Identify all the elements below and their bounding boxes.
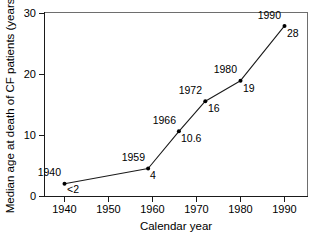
point-year-label-1966: 1966 [153,114,177,126]
y-tick-label-30: 30 [24,7,36,19]
point-value-label-1980: 19 [243,82,255,94]
data-point-1990 [283,24,287,28]
point-value-label-1959: 4 [150,169,156,181]
point-value-label-1966: 10.6 [181,132,202,144]
x-tick-label-1970: 1970 [184,203,208,215]
point-value-label-1972: 16 [208,102,220,114]
plot-frame [44,13,308,197]
x-axis-title: Calendar year [140,220,212,232]
point-year-label-1980: 1980 [214,63,238,75]
x-tick-label-1940: 1940 [52,203,76,215]
y-tick-label-0: 0 [30,190,36,202]
data-point-1972 [203,99,207,103]
data-series-line [65,26,285,184]
x-tick-label-1980: 1980 [228,203,252,215]
y-tick-label-20: 20 [24,68,36,80]
x-tick-label-1960: 1960 [140,203,164,215]
point-year-label-1990: 1990 [258,9,282,21]
point-year-label-1940: 1940 [38,166,62,178]
x-tick-label-1990: 1990 [272,203,296,215]
point-value-label-1940: <2 [67,183,79,195]
line-chart: 0 10 20 30 1940 1950 1960 1970 1980 1990… [0,0,319,236]
chart-figure: 0 10 20 30 1940 1950 1960 1970 1980 1990… [0,0,319,236]
point-year-label-1959: 1959 [122,151,146,163]
point-value-label-1990: 28 [287,27,299,39]
data-point-1980 [239,79,243,83]
point-year-label-1972: 1972 [179,84,203,96]
y-axis-title: Median age at death of CF patients (year… [4,0,16,213]
x-tick-label-1950: 1950 [96,203,120,215]
data-point-1940 [63,182,67,186]
y-tick-label-10: 10 [24,129,36,141]
